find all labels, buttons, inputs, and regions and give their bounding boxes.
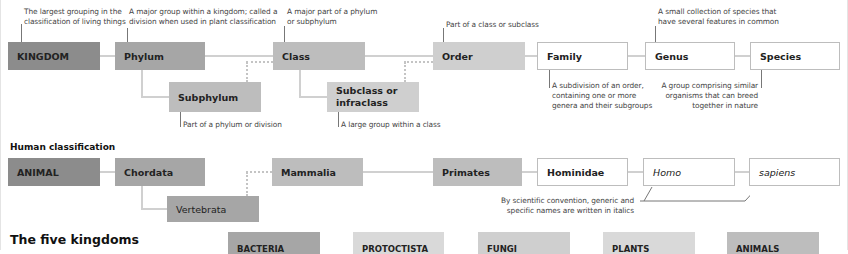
connector-chordata-vertebrata-v <box>141 186 143 209</box>
connector-animal-chordata <box>100 171 115 173</box>
connector-class-order <box>365 55 433 57</box>
rank-kingdom-label: KINGDOM <box>17 51 69 62</box>
pin-phylum-note <box>127 28 128 42</box>
rank-subclass-label-line2: infraclass <box>336 97 388 109</box>
dotted-subclass-order-v <box>404 62 406 82</box>
connector-class-subclass-v <box>299 70 301 97</box>
note-family: A subdivision of an order, containing on… <box>552 81 652 111</box>
note-phylum: A major group within a kingdom; called a… <box>129 7 277 27</box>
note-subphylum-line1: Part of a phylum or division <box>183 120 282 130</box>
note-class-line2: or subphylum <box>287 17 377 27</box>
note-italics: By scientific convention, generic and sp… <box>484 196 634 216</box>
note-kingdom-line2: classification of living things <box>24 17 126 27</box>
connector-mammalia-primates <box>363 171 433 173</box>
rank-subphylum-box: Subphylum <box>169 82 261 112</box>
note-kingdom-line1: The largest grouping in the <box>24 7 126 17</box>
note-family-line1: A subdivision of an order, <box>552 81 652 91</box>
human-primates-box: Primates <box>433 158 522 186</box>
rank-phylum-label: Phylum <box>124 51 164 62</box>
connector-homo-sapiens <box>735 171 749 173</box>
connector-kingdom-phylum <box>100 55 115 57</box>
connector-family-genus <box>628 55 645 57</box>
note-phylum-line2: division when used in plant classificati… <box>129 17 277 27</box>
note-species-line1: A group comprising similar <box>656 81 758 91</box>
dotted-vertebrata-mammalia-h <box>246 171 272 173</box>
note-italics-line2: specific names are written in italics <box>484 206 634 216</box>
five-kingdoms-heading: The five kingdoms <box>10 232 139 247</box>
pin-genus-note <box>655 26 656 42</box>
human-hominidae-label: Hominidae <box>547 167 604 178</box>
kingdom-fungi-label: FUNGI <box>487 244 517 254</box>
note-genus: A small collection of species that have … <box>658 7 779 27</box>
connector-chordata-vertebrata-h <box>141 208 167 210</box>
rank-class-box: Class <box>273 42 365 70</box>
connector-phylum-class <box>205 55 273 57</box>
human-hominidae-box: Hominidae <box>537 158 628 186</box>
dotted-vertebrata-mammalia-v <box>246 172 248 196</box>
kingdom-plants-label: PLANTS <box>612 244 649 254</box>
rank-subclass-box: Subclass or infraclass <box>327 82 419 112</box>
rank-family-box: Family <box>537 42 628 70</box>
dotted-subphylum-class-h <box>246 61 273 63</box>
human-mammalia-label: Mammalia <box>281 167 336 178</box>
kingdom-animals-label: ANIMALS <box>736 244 779 254</box>
rank-genus-box: Genus <box>645 42 735 70</box>
connector-genus-species <box>735 55 750 57</box>
connector-primates-hominidae <box>522 171 537 173</box>
human-primates-label: Primates <box>442 167 490 178</box>
kingdom-bacteria-label: BACTERIA <box>237 244 284 254</box>
pin-subclass-note <box>338 112 339 127</box>
rank-subclass-label-line1: Subclass or <box>336 85 398 97</box>
rank-genus-label: Genus <box>655 51 688 62</box>
kingdom-animals-box: ANIMALS <box>727 232 819 254</box>
note-order: Part of a class or subclass <box>446 20 539 30</box>
kingdom-plants-box: PLANTS <box>603 232 695 254</box>
rank-order-box: Order <box>433 42 525 70</box>
kingdom-protoctista-label: PROTOCTISTA <box>362 244 428 254</box>
pin-species-note <box>761 70 762 88</box>
human-vertebrata-box: Vertebrata <box>167 196 259 222</box>
pin-subphylum-note <box>180 112 181 127</box>
note-subclass: A large group within a class <box>341 120 441 130</box>
rank-species-label: Species <box>760 51 801 62</box>
human-mammalia-box: Mammalia <box>272 158 363 186</box>
note-order-line1: Part of a class or subclass <box>446 20 539 30</box>
rank-species-box: Species <box>750 42 840 70</box>
human-homo-box: Homo <box>643 158 735 186</box>
note-species-line2: organisms that can breed <box>656 91 758 101</box>
kingdom-protoctista-box: PROTOCTISTA <box>353 232 444 254</box>
human-chordata-label: Chordata <box>124 167 173 178</box>
pin-class-note <box>284 26 285 42</box>
pin-kingdom-note <box>21 24 22 42</box>
human-sapiens-label: sapiens <box>759 167 795 178</box>
rank-phylum-box: Phylum <box>115 42 205 70</box>
note-italics-line1: By scientific convention, generic and <box>484 196 634 206</box>
italics-note-bracket <box>640 186 750 210</box>
note-kingdom: The largest grouping in the classificati… <box>24 7 126 27</box>
note-genus-line2: have several features in common <box>658 17 779 27</box>
connector-class-subclass-h <box>299 96 327 98</box>
human-animal-box: ANIMAL <box>8 158 100 186</box>
note-phylum-line1: A major group within a kingdom; called a <box>129 7 277 17</box>
human-homo-label: Homo <box>653 167 681 178</box>
rank-family-label: Family <box>547 51 582 62</box>
note-species-line3: together in nature <box>656 101 758 111</box>
note-family-line3: genera and their subgroups <box>552 101 652 111</box>
human-chordata-box: Chordata <box>115 158 205 186</box>
rank-order-label: Order <box>442 51 473 62</box>
note-subphylum: Part of a phylum or division <box>183 120 282 130</box>
note-genus-line1: A small collection of species that <box>658 7 779 17</box>
note-species: A group comprising similar organisms tha… <box>656 81 758 111</box>
dotted-subphylum-class-v <box>246 62 248 82</box>
pin-order-note <box>443 28 444 42</box>
human-animal-label: ANIMAL <box>17 167 59 178</box>
human-vertebrata-label: Vertebrata <box>176 204 226 215</box>
human-sapiens-box: sapiens <box>749 158 840 186</box>
kingdom-bacteria-box: BACTERIA <box>228 232 320 254</box>
note-class-line1: A major part of a phylum <box>287 7 377 17</box>
connector-phylum-subphylum-v <box>141 70 143 97</box>
note-class: A major part of a phylum or subphylum <box>287 7 377 27</box>
note-subclass-line1: A large group within a class <box>341 120 441 130</box>
rank-kingdom-box: KINGDOM <box>8 42 100 70</box>
connector-phylum-subphylum-h <box>141 96 169 98</box>
